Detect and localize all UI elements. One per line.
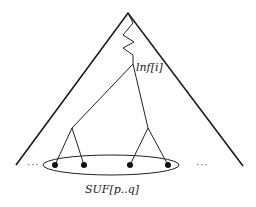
tree-outline-triangle bbox=[16, 13, 243, 166]
node-label: lnf[i] bbox=[136, 61, 163, 74]
set-label: SUF[p..q] bbox=[85, 183, 140, 196]
edge-left-subtree-leaf2 bbox=[72, 128, 84, 165]
left-ellipsis: ··· bbox=[27, 159, 40, 170]
edge-node-to-left-subtree bbox=[72, 64, 133, 128]
leaf-node bbox=[127, 162, 133, 168]
suffix-range-ellipse bbox=[43, 155, 179, 175]
zigzag-path bbox=[123, 13, 134, 64]
edge-right-subtree-leaf2 bbox=[148, 128, 168, 165]
suffix-tree-diagram: ··· ··· lnf[i] SUF[p..q] bbox=[0, 0, 256, 207]
leaf-node bbox=[52, 162, 58, 168]
edge-left-subtree-leaf1 bbox=[55, 128, 72, 165]
leaf-node bbox=[81, 162, 87, 168]
leaf-node bbox=[165, 162, 171, 168]
right-ellipsis: ··· bbox=[196, 159, 209, 170]
edge-right-subtree-leaf1 bbox=[130, 128, 148, 165]
